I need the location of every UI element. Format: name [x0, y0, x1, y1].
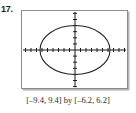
exercise-figure: 17. [0, 0, 136, 113]
graphing-calculator-screen [21, 10, 128, 89]
problem-number-label: 17. [1, 4, 13, 14]
graph-plot-area [22, 11, 127, 88]
viewing-window-caption: [–9.4, 9.4] by [–6.2, 6.2] [0, 95, 136, 105]
